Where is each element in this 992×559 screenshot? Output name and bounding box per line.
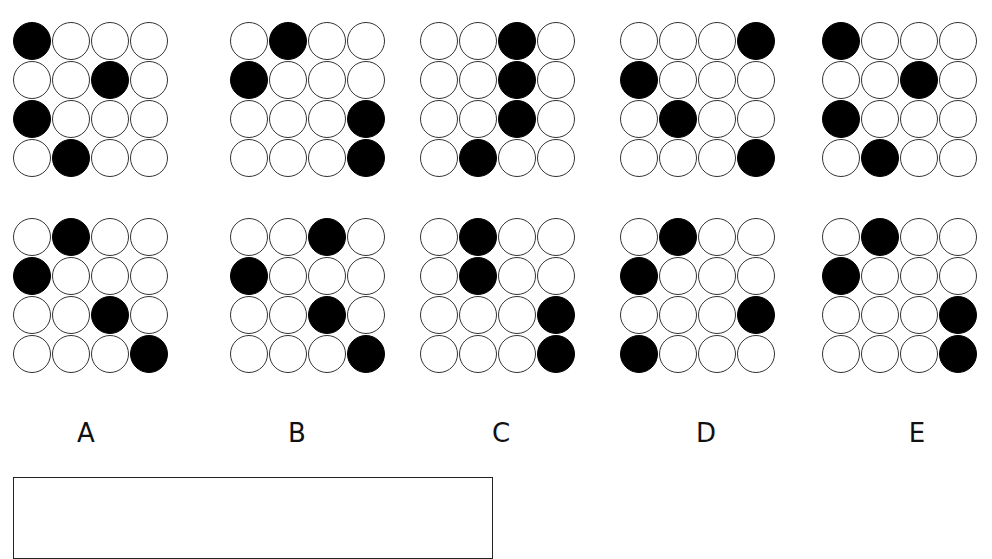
empty-circle [130,61,168,99]
filled-circle [13,257,51,295]
empty-circle [459,335,497,373]
empty-circle [659,139,697,177]
empty-circle [498,218,536,256]
empty-circle [698,139,736,177]
empty-circle [861,22,899,60]
filled-circle [308,296,346,334]
empty-circle [269,218,307,256]
empty-circle [13,335,51,373]
option-c-bottom-grid [420,218,576,374]
empty-circle [822,335,860,373]
empty-circle [537,100,575,138]
filled-circle [230,257,268,295]
empty-circle [308,61,346,99]
empty-circle [737,335,775,373]
filled-circle [737,296,775,334]
empty-circle [537,22,575,60]
filled-circle [13,100,51,138]
empty-circle [459,22,497,60]
empty-circle [347,22,385,60]
filled-circle [822,100,860,138]
answer-box[interactable] [13,477,493,559]
option-label-c[interactable]: C [492,418,510,448]
empty-circle [308,335,346,373]
empty-circle [420,139,458,177]
filled-circle [459,139,497,177]
empty-circle [420,61,458,99]
empty-circle [347,218,385,256]
empty-circle [620,100,658,138]
filled-circle [459,218,497,256]
empty-circle [230,139,268,177]
option-d-bottom-grid [620,218,776,374]
empty-circle [230,218,268,256]
empty-circle [659,61,697,99]
filled-circle [861,218,899,256]
empty-circle [13,61,51,99]
empty-circle [91,139,129,177]
empty-circle [659,335,697,373]
empty-circle [537,139,575,177]
empty-circle [308,22,346,60]
empty-circle [420,335,458,373]
empty-circle [13,296,51,334]
empty-circle [52,296,90,334]
empty-circle [939,100,977,138]
filled-circle [737,139,775,177]
empty-circle [900,22,938,60]
empty-circle [698,296,736,334]
empty-circle [308,257,346,295]
empty-circle [698,61,736,99]
empty-circle [420,22,458,60]
filled-circle [939,296,977,334]
empty-circle [822,218,860,256]
filled-circle [347,335,385,373]
filled-circle [537,296,575,334]
empty-circle [737,100,775,138]
empty-circle [822,61,860,99]
option-label-a[interactable]: A [77,418,95,448]
empty-circle [91,335,129,373]
empty-circle [230,22,268,60]
empty-circle [861,61,899,99]
empty-circle [620,218,658,256]
filled-circle [537,335,575,373]
empty-circle [861,257,899,295]
filled-circle [939,335,977,373]
empty-circle [347,296,385,334]
empty-circle [13,139,51,177]
filled-circle [737,22,775,60]
empty-circle [498,335,536,373]
filled-circle [861,139,899,177]
empty-circle [659,22,697,60]
empty-circle [620,139,658,177]
empty-circle [130,218,168,256]
option-e-bottom-grid [822,218,978,374]
empty-circle [900,257,938,295]
empty-circle [91,100,129,138]
empty-circle [659,257,697,295]
empty-circle [939,139,977,177]
empty-circle [52,100,90,138]
option-a-bottom-grid [13,218,169,374]
filled-circle [822,22,860,60]
empty-circle [498,296,536,334]
option-label-e[interactable]: E [909,418,925,448]
option-b-bottom-grid [230,218,386,374]
empty-circle [698,22,736,60]
empty-circle [537,218,575,256]
empty-circle [659,296,697,334]
filled-circle [91,61,129,99]
option-label-d[interactable]: D [696,418,716,448]
empty-circle [620,296,658,334]
option-label-b[interactable]: B [288,418,306,448]
empty-circle [737,61,775,99]
filled-circle [308,218,346,256]
empty-circle [269,61,307,99]
empty-circle [822,139,860,177]
empty-circle [900,296,938,334]
empty-circle [91,218,129,256]
empty-circle [91,22,129,60]
option-a-top-grid [13,22,169,178]
empty-circle [698,335,736,373]
